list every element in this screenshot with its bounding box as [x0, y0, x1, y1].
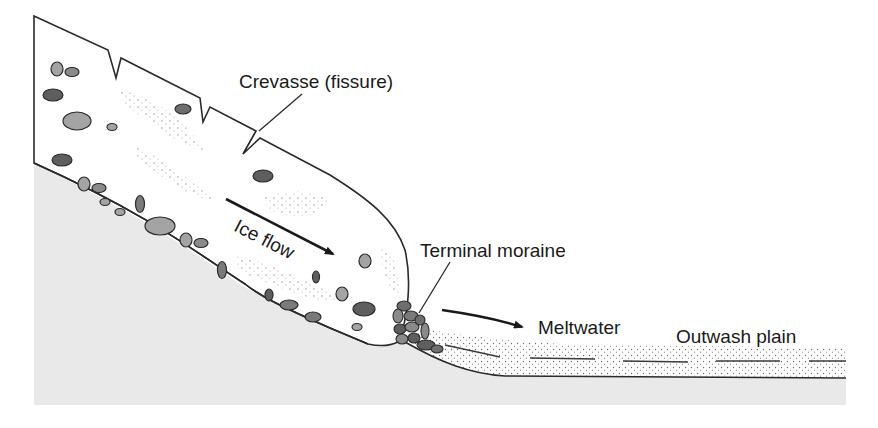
crevasse-leader-line [259, 94, 302, 131]
moraine-leader-line [419, 262, 450, 313]
label-crevasse: Crevasse (fissure) [239, 72, 393, 91]
label-outwash-plain: Outwash plain [676, 327, 796, 346]
label-terminal-moraine: Terminal moraine [420, 241, 566, 260]
label-meltwater: Meltwater [538, 318, 620, 337]
glacier-diagram [0, 0, 878, 428]
meltwater-arrow [442, 310, 522, 327]
